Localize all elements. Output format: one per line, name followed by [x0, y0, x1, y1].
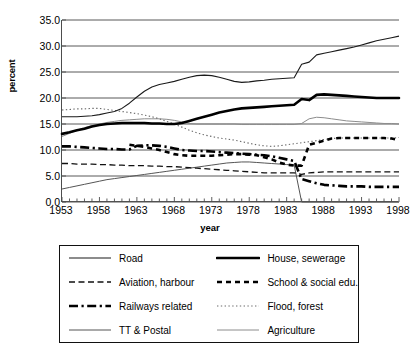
legend-swatch [68, 252, 112, 264]
legend-label: Flood, forest [267, 301, 323, 312]
series-line-flood-forest [62, 108, 399, 146]
legend-label: Railways related [119, 301, 192, 312]
series-line-aviation-harbour [62, 164, 399, 175]
y-tick-label: 20.0 [22, 93, 60, 103]
legend-item[interactable]: House, sewerage [208, 252, 358, 264]
y-tick-label: 5.0 [22, 171, 60, 181]
legend-label: School & social edu. [267, 277, 358, 288]
series-line-house-sewerage [62, 94, 399, 134]
legend-item[interactable]: School & social edu. [208, 276, 358, 288]
y-tick-label: 35.0 [22, 15, 60, 25]
legend-swatch-line [68, 300, 112, 312]
y-tick-label: 10.0 [22, 145, 60, 155]
x-axis-tick-labels: 1953195819631968197319781983198819931998 [0, 204, 420, 222]
legend-swatch [216, 300, 260, 312]
line-chart: percent 35.030.025.020.015.010.05.00.0 1… [0, 0, 420, 238]
legend-swatch-line [216, 252, 260, 264]
legend-swatch [68, 300, 112, 312]
y-axis-tick-labels: 35.030.025.020.015.010.05.00.0 [20, 0, 60, 238]
legend-swatch [216, 324, 260, 336]
legend-item[interactable]: TT & Postal [60, 324, 208, 336]
plot-area [61, 20, 398, 202]
series-line-railways-related [62, 145, 399, 187]
legend-label: Aviation, harbour [119, 277, 194, 288]
x-tick-label: 1998 [376, 204, 420, 216]
y-tick-label: 15.0 [22, 119, 60, 129]
legend-swatch [68, 276, 112, 288]
plot-svg [62, 20, 399, 202]
legend: RoadHouse, sewerageAviation, harbourScho… [59, 245, 359, 343]
legend-item[interactable]: Railways related [60, 300, 208, 312]
legend-swatch [216, 252, 260, 264]
legend-swatch-line [216, 324, 260, 336]
legend-item[interactable]: Aviation, harbour [60, 276, 208, 288]
legend-item[interactable]: Road [60, 252, 208, 264]
legend-swatch-line [68, 252, 112, 264]
legend-swatch-line [216, 276, 260, 288]
legend-swatch-line [68, 276, 112, 288]
legend-swatch-line [68, 324, 112, 336]
legend-swatch [68, 324, 112, 336]
series-line-road [62, 36, 399, 117]
legend-item[interactable]: Agriculture [208, 324, 358, 336]
chart-screenshot: percent 35.030.025.020.015.010.05.00.0 1… [0, 0, 420, 360]
y-tick-label: 25.0 [22, 67, 60, 77]
series-line-school-social-edu [129, 138, 399, 166]
legend-label: Road [119, 253, 143, 264]
series-line-agriculture [62, 117, 399, 136]
x-axis-label: year [0, 222, 420, 233]
series-line-tt-postal [62, 162, 399, 202]
legend-label: TT & Postal [119, 325, 171, 336]
y-tick-label: 30.0 [22, 41, 60, 51]
legend-label: Agriculture [267, 325, 315, 336]
legend-label: House, sewerage [267, 253, 345, 264]
legend-swatch-line [216, 300, 260, 312]
legend-swatch [216, 276, 260, 288]
legend-item[interactable]: Flood, forest [208, 300, 358, 312]
y-axis-label: percent [6, 75, 17, 93]
legend-grid: RoadHouse, sewerageAviation, harbourScho… [60, 246, 358, 342]
